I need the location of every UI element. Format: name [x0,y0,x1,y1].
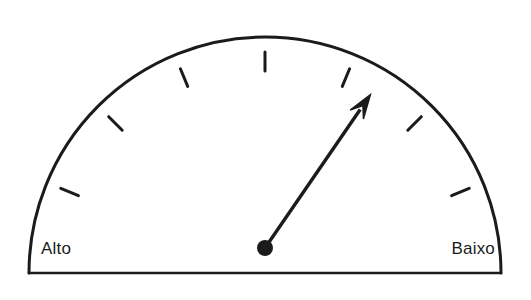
gauge-tick [452,188,470,195]
gauge-label-low-end: Alto [41,240,71,257]
gauge-tick [180,69,187,87]
gauge-pivot [257,240,273,256]
gauge-tick [342,69,349,87]
gauge-needle-arrowhead [350,95,370,119]
gauge-label-high-end: Baixo [451,240,495,257]
gauge-needle [265,110,360,249]
gauge-tick [109,117,123,131]
gauge-tick-group [61,52,469,196]
gauge-tick [408,117,422,131]
gauge-tick [61,188,79,195]
gauge-figure: Alto Baixo [0,0,531,300]
